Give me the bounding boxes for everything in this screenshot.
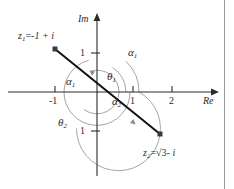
alpha-2-sub: 2 (118, 101, 122, 109)
tick-label-re-2: 2 (169, 96, 174, 106)
theta-2-sub: 2 (63, 122, 67, 130)
alpha-1-left-sub: 1 (72, 81, 76, 89)
alpha-1-upper-right-label: α1 (128, 47, 137, 60)
real-axis-label: Re (203, 96, 214, 106)
z2-point-marker (158, 132, 163, 137)
imaginary-axis-arrowhead (94, 13, 101, 21)
theta-1-label: θ1 (107, 71, 116, 84)
z1-label-value: -1 + i (31, 30, 54, 41)
tick-label-re-minus1: -1 (49, 96, 57, 106)
alpha-1-upper-right-sub: 1 (134, 52, 138, 60)
z1-label: z1=-1 + i (18, 31, 54, 43)
tick-label-re-1: 1 (130, 96, 135, 106)
z2-label: z2=√3- i (143, 148, 175, 160)
tick-label-im-1: 1 (80, 48, 85, 58)
tick-label-im-minus1: 1 (80, 126, 85, 136)
z1-point-marker (53, 47, 58, 52)
complex-plane-figure: Im Re -1 1 2 1 1 z1=-1 + i z2=√3- i α1 α… (0, 0, 234, 189)
theta-1-sub: 1 (112, 76, 116, 84)
theta-2-label: θ2 (58, 117, 67, 130)
alpha-2-label: α2 (112, 96, 121, 109)
theta-2-arc-arrowhead (130, 119, 136, 125)
z2-label-value-post: - i (167, 147, 176, 158)
alpha-1-left-label: α1 (66, 76, 75, 89)
theta-1-arc-arrowhead (90, 71, 96, 76)
imaginary-axis-label: Im (78, 14, 89, 24)
